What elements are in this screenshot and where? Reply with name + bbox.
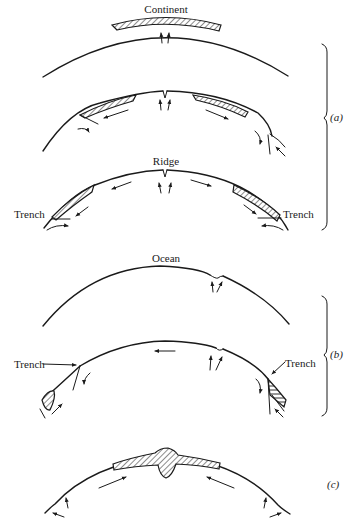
drift-arrow-left xyxy=(76,207,88,216)
trench-label-right: Trench xyxy=(283,208,314,220)
panel-a-stage-2 xyxy=(43,91,285,156)
upwelling-arrow xyxy=(212,282,213,292)
trench-label-left: Trench xyxy=(14,208,45,220)
flow-arrow xyxy=(78,128,89,132)
subduction-arrow xyxy=(256,379,261,393)
convergence-arrow-left xyxy=(99,477,126,488)
collided-continents-with-root xyxy=(113,448,220,478)
drift-arrow-right xyxy=(191,180,211,186)
upwelling-arrow xyxy=(217,282,222,292)
continent-fragment-left xyxy=(42,391,55,410)
continent-wedge-right xyxy=(268,379,286,407)
drift-arrow-right xyxy=(244,205,256,214)
convergence-arrow-right xyxy=(207,477,234,488)
continent-label: Continent xyxy=(144,3,187,15)
flow-arrow xyxy=(262,226,283,231)
trench-label-left: Trench xyxy=(14,358,45,370)
upwelling-arrow xyxy=(66,498,68,508)
upwelling-arrow xyxy=(216,357,222,370)
subducting-slab xyxy=(270,134,285,147)
upwelling-arrow xyxy=(160,100,161,110)
drift-arrow-right xyxy=(206,110,228,119)
earth-surface-arc-right xyxy=(167,91,272,136)
flow-arrow xyxy=(52,404,62,414)
earth-surface-arc xyxy=(43,38,288,77)
brace-b: (b) xyxy=(322,296,343,416)
panel-c: (c) xyxy=(45,448,340,517)
upwelling-arrow xyxy=(168,33,169,43)
earth-surface-arc-mid xyxy=(80,341,216,366)
upwelling-arrow xyxy=(264,498,266,508)
panel-b-stage-2: Trench Trench xyxy=(14,341,316,418)
brace-a: (a) xyxy=(322,44,343,230)
ridge-crest xyxy=(163,170,167,177)
diagram-figure: Continent Ridge Trench Trench xyxy=(0,0,353,524)
panel-label-a: (a) xyxy=(330,111,343,124)
upwelling-arrow xyxy=(169,183,171,193)
drift-arrow-left xyxy=(104,110,128,118)
trench-line xyxy=(268,135,270,154)
ridge-crest xyxy=(210,275,223,278)
ridge-label: Ridge xyxy=(153,155,179,167)
upwelling-arrow xyxy=(168,100,170,110)
panel-b-stage-1: Ocean xyxy=(43,252,289,326)
panel-label-c: (c) xyxy=(327,478,340,491)
earth-surface-arc-right xyxy=(223,349,268,379)
ridge-crest xyxy=(216,348,223,350)
label-pointer xyxy=(272,362,285,374)
upwelling-arrow xyxy=(159,183,161,193)
panel-a-stage-1: Continent xyxy=(43,3,288,77)
upwelling-arrow xyxy=(210,356,211,370)
flow-arrow xyxy=(275,409,283,417)
earth-surface-arc-right xyxy=(167,170,288,230)
flow-arrow xyxy=(276,147,285,156)
continent-plate xyxy=(112,18,221,32)
continent-fragment-right xyxy=(233,185,280,221)
panel-a-stage-3: Ridge Trench Trench xyxy=(14,155,314,230)
rift xyxy=(163,91,167,98)
panel-label-b: (b) xyxy=(330,348,343,361)
flow-arrow xyxy=(270,513,281,517)
subduction-arrow xyxy=(84,373,90,384)
earth-surface-arc-left xyxy=(43,91,163,151)
label-pointer xyxy=(43,364,76,365)
flow-arrow xyxy=(47,226,68,231)
ocean-label: Ocean xyxy=(152,252,181,264)
earth-surface-arc-left xyxy=(43,266,210,326)
subduction-arrow xyxy=(255,131,260,144)
trench-label-right: Trench xyxy=(285,357,316,369)
drift-arrow-left xyxy=(112,182,131,189)
brace xyxy=(322,44,327,230)
earth-surface-arc-right xyxy=(223,276,289,324)
flow-arrow xyxy=(53,513,64,517)
brace xyxy=(322,296,327,416)
upwelling-arrow xyxy=(161,33,162,43)
continent-fragment-left xyxy=(52,185,94,220)
hatch-stub xyxy=(40,409,45,418)
